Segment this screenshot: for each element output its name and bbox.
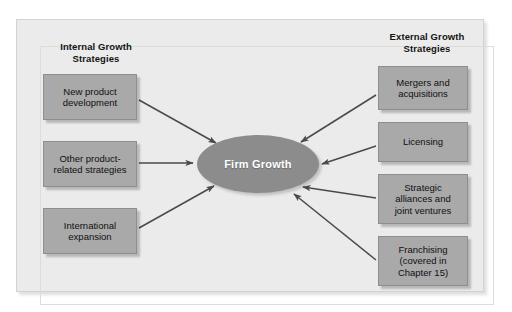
arrow-alliances-to-hub — [303, 187, 376, 198]
arrow-mergers-to-hub — [301, 95, 376, 142]
node-international-expansion[interactable]: International expansion — [43, 208, 137, 254]
node-licensing[interactable]: Licensing — [378, 122, 468, 162]
node-label: Licensing — [400, 136, 446, 148]
node-label: Other product- related strategies — [51, 153, 130, 176]
arrow-franchising-to-hub — [294, 194, 376, 260]
node-label: New product development — [60, 86, 120, 109]
hub-label: Firm Growth — [224, 158, 292, 170]
node-label: Franchising (covered in Chapter 15) — [395, 244, 451, 279]
node-new-product-development[interactable]: New product development — [43, 74, 137, 120]
node-franchising[interactable]: Franchising (covered in Chapter 15) — [378, 236, 468, 286]
hub-firm-growth[interactable]: Firm Growth — [197, 135, 319, 193]
node-other-product-related-strategies[interactable]: Other product- related strategies — [43, 141, 137, 187]
node-label: International expansion — [61, 220, 119, 243]
arrow-licensing-to-hub — [322, 146, 376, 164]
heading-external-growth-strategies: External Growth Strategies — [371, 31, 483, 54]
arrow-international-to-hub — [139, 186, 214, 228]
node-mergers-and-acquisitions[interactable]: Mergers and acquisitions — [378, 66, 468, 110]
diagram-canvas: Internal Growth Strategies External Grow… — [0, 0, 512, 312]
node-strategic-alliances-and-joint-ventures[interactable]: Strategic alliances and joint ventures — [378, 174, 468, 224]
node-label: Strategic alliances and joint ventures — [392, 182, 455, 217]
node-label: Mergers and acquisitions — [393, 77, 452, 100]
heading-internal-growth-strategies: Internal Growth Strategies — [40, 41, 152, 64]
arrow-new-product-to-hub — [139, 100, 216, 143]
